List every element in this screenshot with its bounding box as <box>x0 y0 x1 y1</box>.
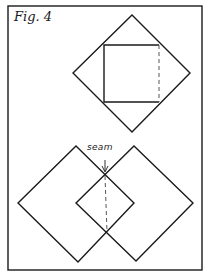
seam-line <box>105 176 107 232</box>
inner-square-solid <box>104 45 159 102</box>
top-diamond <box>73 15 190 132</box>
seam-arrow-icon <box>102 160 108 172</box>
figure-diagram <box>0 0 206 277</box>
seam-label: seam <box>87 142 113 152</box>
figure-caption: Fig. 4 <box>14 9 52 24</box>
